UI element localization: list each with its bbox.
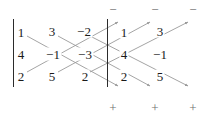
- matrix-cell-r3c5: 5: [157, 70, 164, 83]
- matrix-cell-r2c1: 4: [18, 48, 25, 61]
- sign-minus-3: −: [189, 3, 196, 16]
- matrix-cell-r1c3: −2: [77, 25, 91, 38]
- matrix-cell-r1c4: 1: [121, 26, 128, 39]
- sign-minus-2: −: [151, 3, 158, 16]
- sign-minus-1: −: [109, 3, 116, 16]
- matrix-cell-r3c4: 2: [121, 70, 128, 83]
- matrix-cell-r3c2: 5: [49, 70, 56, 83]
- matrix-cell-r1c5: 3: [157, 25, 164, 38]
- matrix-cell-r2c5: −1: [153, 48, 167, 61]
- matrix-cell-r1c2: 3: [49, 25, 56, 38]
- matrix-cell-r2c4: 4: [121, 48, 128, 61]
- sign-plus-1: +: [109, 101, 116, 114]
- matrix-cell-r2c2: −1: [46, 48, 60, 61]
- sign-plus-3: +: [189, 101, 196, 114]
- matrix-cell-r3c3: 2: [82, 70, 89, 83]
- matrix-cell-r1c1: 1: [18, 26, 25, 39]
- matrix-cell-r2c3: −3: [78, 48, 92, 61]
- matrix-cell-r3c1: 2: [18, 70, 25, 83]
- sarrus-determinant-figure: 13−2134−1−34−125225 −−− +++: [0, 0, 203, 117]
- arrow-layer: [0, 0, 203, 117]
- left-bar: [13, 19, 14, 87]
- right-bar: [107, 19, 108, 87]
- sign-plus-2: +: [151, 101, 158, 114]
